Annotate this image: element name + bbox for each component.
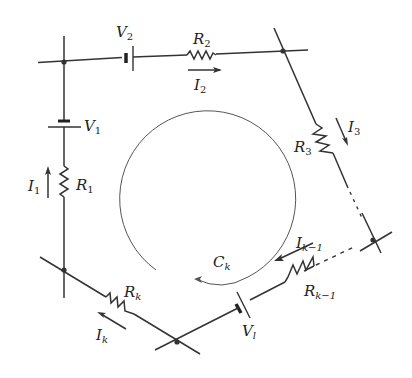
label-rk: Rk xyxy=(123,283,141,302)
circuit-diagram: V2 R2 I2 V1 R1 I1 R3 I3 Ck Ik−1 Rk−1 Vl … xyxy=(0,0,412,378)
label-vl: Vl xyxy=(242,322,256,341)
label-ck: Ck xyxy=(213,253,231,272)
label-ik-minus-1: Ik−1 xyxy=(295,234,323,253)
dotted-continuation-right xyxy=(350,192,362,218)
resistor-rk-minus-1 xyxy=(285,257,314,282)
label-i3: I3 xyxy=(347,118,360,137)
battery-vl-long-plate xyxy=(237,292,250,318)
label-r1: R1 xyxy=(75,176,94,195)
label-i1: I1 xyxy=(27,177,40,196)
node-top-left xyxy=(61,59,66,64)
label-r2: R2 xyxy=(192,30,211,49)
loop-ck-tail xyxy=(196,277,248,285)
loop-ck xyxy=(120,111,296,277)
label-i2: I2 xyxy=(193,76,206,95)
node-bottom xyxy=(174,339,179,344)
arrow-ck xyxy=(194,276,202,283)
label-r3: R3 xyxy=(293,138,312,157)
node-top-right xyxy=(280,48,285,53)
label-v2: V2 xyxy=(116,23,133,42)
arrow-ik xyxy=(97,312,106,318)
label-ik: Ik xyxy=(95,326,108,345)
resistor-r1 xyxy=(60,166,68,197)
node-bottom-left xyxy=(61,267,66,272)
branch-top xyxy=(38,46,308,73)
label-rk-minus-1: Rk−1 xyxy=(303,282,336,301)
resistor-r2 xyxy=(187,51,216,59)
branch-left xyxy=(45,36,81,298)
resistor-r3 xyxy=(313,124,333,153)
branch-lower-right xyxy=(155,232,392,350)
node-right xyxy=(370,237,375,242)
label-v1: V1 xyxy=(84,117,101,136)
branch-right xyxy=(274,28,381,253)
